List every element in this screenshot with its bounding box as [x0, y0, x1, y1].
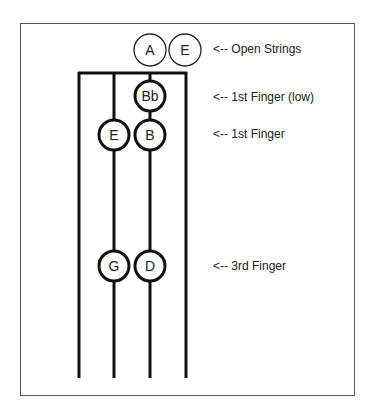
svg-text:G: G — [109, 258, 120, 274]
label-first-finger-low: <-- 1st Finger (low) — [213, 90, 314, 104]
svg-text:B: B — [145, 127, 154, 143]
note-b: B — [135, 120, 165, 150]
note-g: G — [99, 251, 129, 281]
note-e: E — [99, 120, 129, 150]
svg-text:E: E — [180, 42, 189, 58]
svg-text:E: E — [109, 127, 118, 143]
svg-text:A: A — [145, 42, 155, 58]
label-first-finger: <-- 1st Finger — [213, 127, 285, 141]
svg-text:Bb: Bb — [141, 88, 158, 104]
note-bb: Bb — [135, 81, 165, 111]
note-d: D — [135, 251, 165, 281]
open-string-a: A — [134, 34, 166, 66]
label-open-strings: <-- Open Strings — [213, 42, 301, 56]
open-string-e: E — [169, 34, 201, 66]
svg-text:D: D — [145, 258, 155, 274]
fingerboard-diagram: A E Bb E B G D — [0, 0, 375, 417]
label-third-finger: <-- 3rd Finger — [213, 259, 286, 273]
